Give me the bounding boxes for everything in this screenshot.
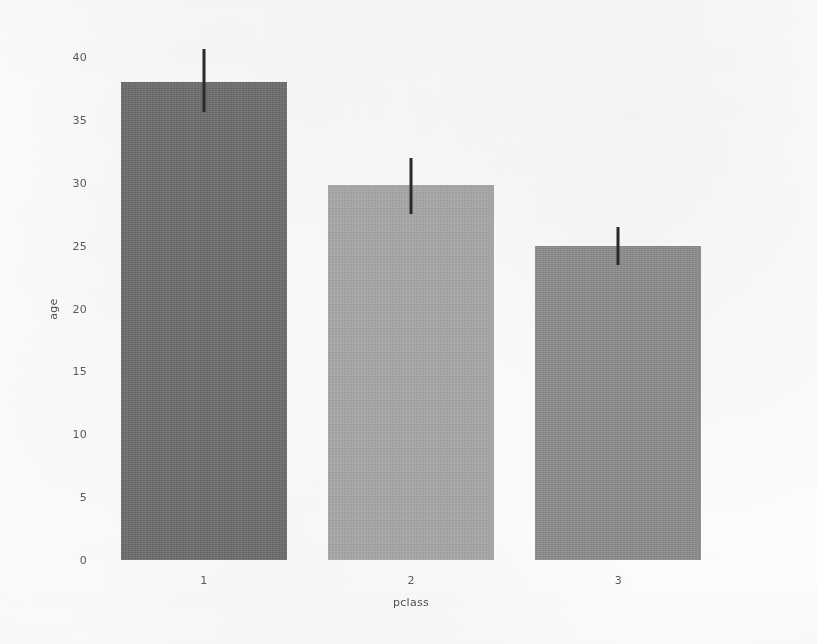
- bar-pclass-3[interactable]: [535, 246, 701, 560]
- y-tick-label: 25: [73, 239, 87, 252]
- bar-pclass-2[interactable]: [328, 185, 494, 560]
- y-tick-label: 35: [73, 113, 87, 126]
- bar-fill: [328, 185, 494, 560]
- y-tick-label: 15: [73, 365, 87, 378]
- bar-fill: [535, 246, 701, 560]
- error-bar-pclass-3: [617, 227, 620, 265]
- figure-canvas: 0 5 10 15 20 25 30 35 40 1 2 3 pclass ag…: [0, 0, 817, 644]
- plot-axes: 0 5 10 15 20 25 30 35 40 1 2 3 pclass ag…: [100, 57, 722, 560]
- x-axis-label: pclass: [393, 596, 429, 609]
- y-tick-label: 30: [73, 176, 87, 189]
- y-tick-label: 40: [73, 51, 87, 64]
- y-tick-label: 5: [80, 491, 87, 504]
- error-bar-pclass-1: [202, 49, 205, 112]
- bar-pclass-1[interactable]: [121, 82, 287, 560]
- y-tick-label: 20: [73, 302, 87, 315]
- y-tick-label: 0: [80, 554, 87, 567]
- y-tick-label: 10: [73, 428, 87, 441]
- bar-fill: [121, 82, 287, 560]
- x-tick-label: 2: [408, 574, 415, 587]
- x-tick-label: 3: [615, 574, 622, 587]
- x-tick-label: 1: [200, 574, 207, 587]
- y-axis-label: age: [47, 298, 60, 319]
- error-bar-pclass-2: [410, 158, 413, 215]
